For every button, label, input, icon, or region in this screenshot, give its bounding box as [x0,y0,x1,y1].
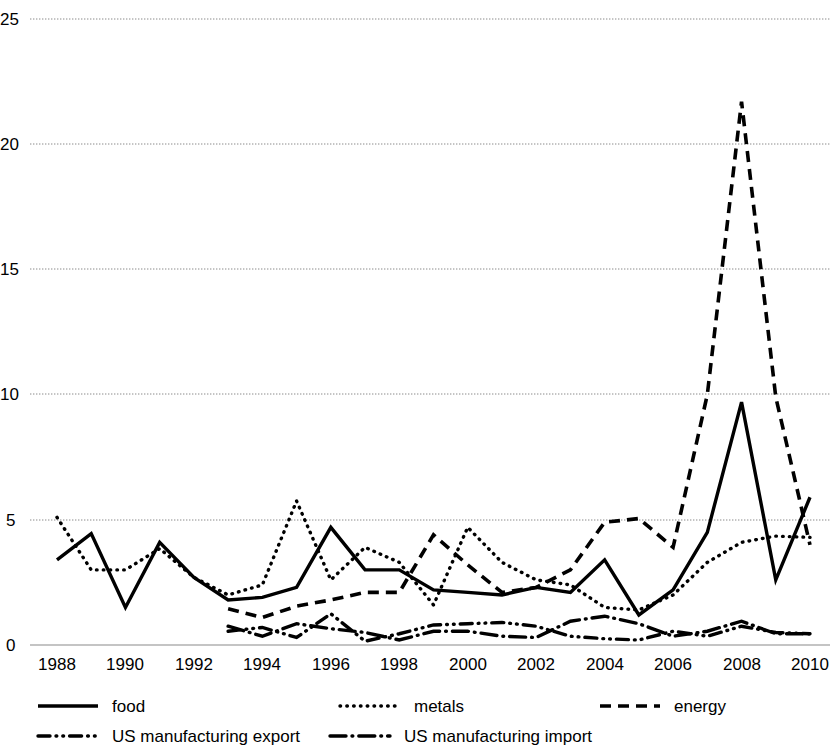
x-tick-label-2004: 2004 [586,655,624,674]
x-tick-label-2008: 2008 [723,655,761,674]
chart-background [0,0,838,754]
legend-label-us-manufacturing-export[interactable]: US manufacturing export [112,727,300,746]
x-tick-label-2000: 2000 [449,655,487,674]
x-tick-label-1994: 1994 [243,655,281,674]
x-tick-label-1990: 1990 [106,655,144,674]
y-tick-label-25: 25 [0,10,19,29]
legend-label-energy[interactable]: energy [674,697,726,716]
y-tick-label-5: 5 [6,511,15,530]
legend-label-food[interactable]: food [112,697,145,716]
x-tick-label-1998: 1998 [380,655,418,674]
x-tick-label-2010: 2010 [791,655,829,674]
x-tick-label-2006: 2006 [654,655,692,674]
y-tick-label-10: 10 [0,385,19,404]
y-tick-label-15: 15 [0,260,19,279]
x-tick-label-1988: 1988 [38,655,76,674]
x-tick-label-1996: 1996 [312,655,350,674]
y-tick-label-20: 20 [0,135,19,154]
legend-label-us-manufacturing-import[interactable]: US manufacturing import [404,727,592,746]
x-tick-label-2002: 2002 [517,655,555,674]
chart-figure: 25 20 15 10 5 0 1988 1990 1992 1994 1996… [0,0,838,754]
x-tick-label-1992: 1992 [175,655,213,674]
legend-label-metals[interactable]: metals [414,697,464,716]
y-tick-label-0: 0 [6,636,15,655]
